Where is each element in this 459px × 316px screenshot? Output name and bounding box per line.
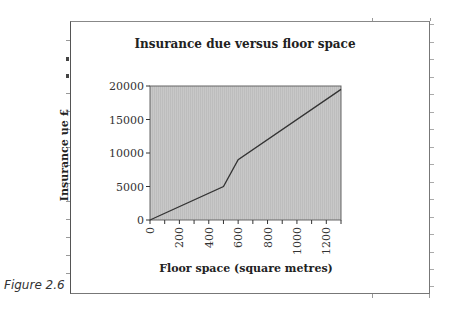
plot-area (150, 86, 341, 220)
y-tick-label: 10000 (109, 147, 144, 160)
y-tick-label: 20000 (109, 80, 144, 93)
y-tick-label: 0 (137, 214, 144, 227)
x-tick-label: 1200 (320, 227, 333, 255)
y-tick-label: 5000 (116, 181, 144, 194)
x-tick-label: 800 (262, 227, 275, 248)
x-tick-label: 600 (232, 227, 245, 248)
y-tick-label: 15000 (109, 114, 144, 127)
x-tick-label: 400 (203, 227, 216, 248)
x-tick-label: 200 (173, 227, 186, 248)
chart-plot: 0500010000150002000002004006008001000120… (0, 0, 459, 316)
x-tick-label: 0 (144, 227, 157, 234)
x-tick-label: 1000 (291, 227, 304, 255)
